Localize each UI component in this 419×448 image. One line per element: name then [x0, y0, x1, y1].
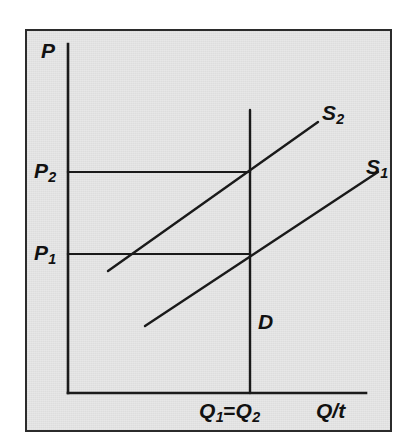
- supply-s1-base-text: S: [366, 155, 380, 178]
- supply-s2-subscript-text: 2: [336, 111, 344, 127]
- y-axis-label-text: P: [41, 39, 55, 62]
- supply-curve-s1-label: S1: [366, 156, 388, 177]
- demand-curve-label: D: [258, 311, 273, 332]
- price-level-p2-label: P2: [34, 160, 56, 181]
- supply-s1-subscript-text: 1: [380, 165, 388, 181]
- quantity-q1-base-text: Q: [199, 399, 215, 422]
- price-p1-subscript-text: 1: [48, 251, 56, 267]
- price-p2-base-text: P: [34, 159, 48, 182]
- quantity-q2-subscript-text: 2: [252, 409, 260, 425]
- quantity-q2-base-text: Q: [236, 399, 252, 422]
- quantity-q1-subscript-text: 1: [216, 409, 224, 425]
- plot-frame: [25, 29, 392, 432]
- x-axis-label-quantity-per-time: Q/t: [316, 400, 345, 421]
- supply-curve-s2-label: S2: [322, 102, 344, 123]
- economics-supply-demand-figure: P P2 P1 S2 S1 D Q1=Q2 Q/t: [0, 0, 419, 448]
- x-axis-time-unit-text: t: [338, 399, 345, 422]
- price-level-p1-label: P1: [34, 242, 56, 263]
- price-p2-subscript-text: 2: [48, 169, 56, 185]
- quantity-equals-text: =: [223, 399, 235, 422]
- quantity-equilibrium-label: Q1=Q2: [199, 400, 260, 421]
- x-axis-quantity-text: Q: [316, 399, 332, 422]
- y-axis-label-price: P: [41, 40, 55, 61]
- price-p1-base-text: P: [34, 241, 48, 264]
- demand-label-text: D: [258, 310, 273, 333]
- supply-s2-base-text: S: [322, 101, 336, 124]
